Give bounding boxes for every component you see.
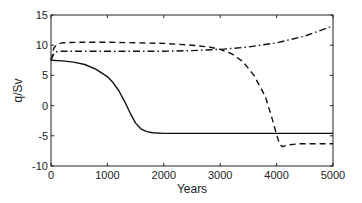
x-tick-label: 4000 <box>264 169 288 181</box>
series-line-dash-dot <box>51 26 333 60</box>
y-tick-label: 10 <box>36 39 48 51</box>
series-line-solid <box>51 60 333 133</box>
y-tick-label: 15 <box>36 9 48 21</box>
line-chart: 010002000300040005000-10-5051015 Years q… <box>0 0 362 203</box>
series-layer <box>51 26 333 147</box>
x-tick-label: 3000 <box>208 169 232 181</box>
y-tick-label: -5 <box>38 130 48 142</box>
x-tick-label: 2000 <box>152 169 176 181</box>
series-line-dashed <box>51 42 333 147</box>
x-tick-label: 1000 <box>95 169 119 181</box>
y-tick-label: -10 <box>32 160 48 172</box>
y-axis-label: q/Sv <box>11 78 25 102</box>
x-tick-label: 0 <box>48 169 54 181</box>
y-tick-label: 5 <box>42 69 48 81</box>
y-tick-label: 0 <box>42 100 48 112</box>
plot-frame <box>51 15 333 166</box>
x-axis-label: Years <box>177 182 207 196</box>
axis-ticks: 010002000300040005000-10-5051015 <box>32 9 345 181</box>
x-tick-label: 5000 <box>321 169 345 181</box>
